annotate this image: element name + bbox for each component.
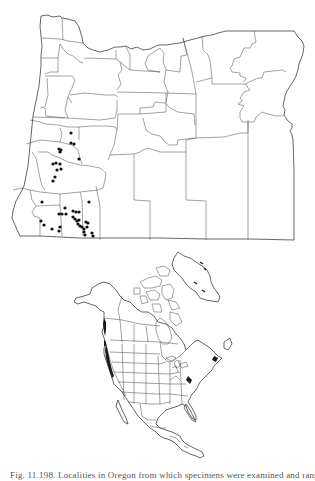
political-boundaries: [104, 296, 188, 448]
arctic-archipelago: [134, 266, 182, 326]
north-america-outline: [74, 282, 222, 458]
greenland-outline: [172, 252, 220, 302]
figure-caption: Fig. 11.198. Localities in Oregon from w…: [10, 469, 315, 481]
species-range: [103, 318, 218, 384]
baja-california: [116, 400, 128, 424]
newfoundland: [224, 338, 232, 350]
north-america-map: [0, 0, 315, 470]
